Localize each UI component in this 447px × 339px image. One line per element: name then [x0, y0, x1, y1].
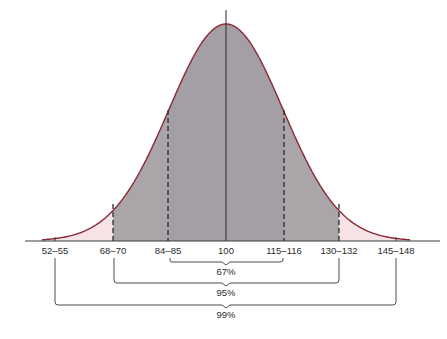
tick-label-84-85: 84–85: [155, 245, 181, 256]
tick-label-130-132: 130–132: [321, 245, 358, 256]
bracket-label-67: 67%: [216, 266, 236, 277]
tick-label-145-148: 145–148: [378, 245, 415, 256]
bell-curve-diagram: 52–55 68–70 84–85 100 115–116 130–132 14…: [0, 0, 447, 339]
bracket-label-99: 99%: [216, 309, 236, 320]
bracket-label-95: 95%: [216, 287, 236, 298]
tick-label-115-116: 115–116: [266, 245, 302, 256]
tick-label-100: 100: [218, 245, 234, 256]
bracket-67: [170, 258, 283, 265]
tick-label-52-55: 52–55: [42, 245, 68, 256]
tick-label-68-70: 68–70: [100, 245, 126, 256]
